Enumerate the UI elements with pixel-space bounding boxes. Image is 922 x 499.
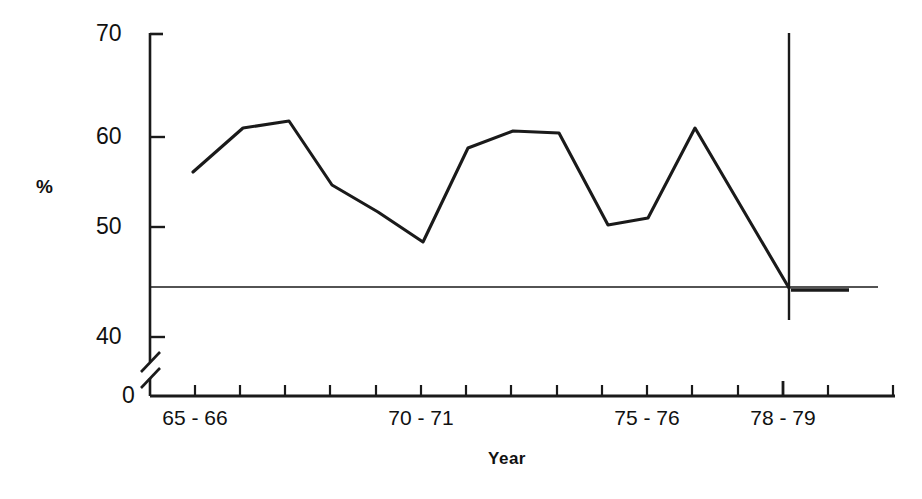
y-tick-label-50: 50 bbox=[96, 213, 122, 240]
chart-container: 70 60 50 40 0 % 65 - 66 70 - 71 75 - 76 … bbox=[0, 0, 922, 499]
x-tick-label-78-79: 78 - 79 bbox=[736, 406, 830, 430]
x-tick-label-70-71: 70 - 71 bbox=[374, 406, 468, 430]
data-series-line bbox=[193, 121, 789, 288]
x-axis-title: Year bbox=[462, 449, 552, 469]
x-tick-label-75-76: 75 - 76 bbox=[600, 406, 694, 430]
y-axis-label: % bbox=[36, 176, 53, 198]
y-tick-label-70: 70 bbox=[96, 20, 122, 47]
y-tick-label-60: 60 bbox=[96, 123, 122, 150]
x-axis-ticks bbox=[195, 381, 893, 396]
y-tick-label-0: 0 bbox=[122, 382, 135, 409]
x-tick-label-65-66: 65 - 66 bbox=[148, 406, 242, 430]
y-tick-label-40: 40 bbox=[96, 323, 122, 350]
